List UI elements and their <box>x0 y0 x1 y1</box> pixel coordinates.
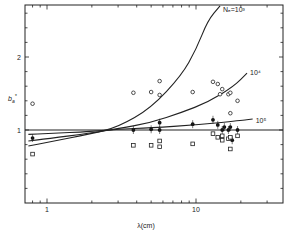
marker-open-circle <box>149 90 153 94</box>
marker-open-square <box>149 144 153 148</box>
marker-open-circle <box>211 80 215 84</box>
marker-open-square <box>216 136 220 140</box>
x-tick-label: 1 <box>45 206 49 213</box>
marker-open-square <box>236 134 240 138</box>
marker-open-circle <box>191 90 195 94</box>
marker-open-square <box>132 144 136 148</box>
model-curves: Nₑ=10³10⁴10⁵ <box>28 6 266 146</box>
marker-open-square <box>229 147 233 151</box>
curve-10- <box>28 119 252 134</box>
curve-label: 10⁴ <box>250 69 261 76</box>
chart: 11012 Nₑ=10³10⁴10⁵ λ(cm) ba* <box>0 0 290 232</box>
x-axis-label: λ(cm) <box>137 222 155 230</box>
marker-open-circle <box>158 79 162 83</box>
marker-open-square <box>191 142 195 146</box>
y-tick-label: 2 <box>17 54 21 61</box>
marker-open-square <box>158 145 162 149</box>
marker-open-square <box>220 138 224 142</box>
marker-open-circle <box>229 91 233 95</box>
curve-label: Nₑ=10³ <box>223 6 246 13</box>
marker-open-square <box>229 136 233 140</box>
y-tick-label: 1 <box>17 127 21 134</box>
marker-open-circle <box>158 93 162 97</box>
marker-open-circle <box>229 111 233 115</box>
marker-open-circle <box>220 87 224 91</box>
marker-open-circle <box>218 92 222 96</box>
marker-open-square <box>31 152 35 156</box>
marker-open-circle <box>132 91 136 95</box>
marker-open-square <box>158 139 162 143</box>
y-axis-label: ba* <box>8 93 18 104</box>
marker-open-circle <box>236 99 240 103</box>
curve-label: 10⁵ <box>256 117 267 124</box>
x-tick-label: 10 <box>192 206 200 213</box>
marker-open-square <box>220 134 224 138</box>
marker-open-circle <box>216 82 220 86</box>
marker-open-circle <box>31 102 35 106</box>
marker-open-square <box>211 132 215 136</box>
